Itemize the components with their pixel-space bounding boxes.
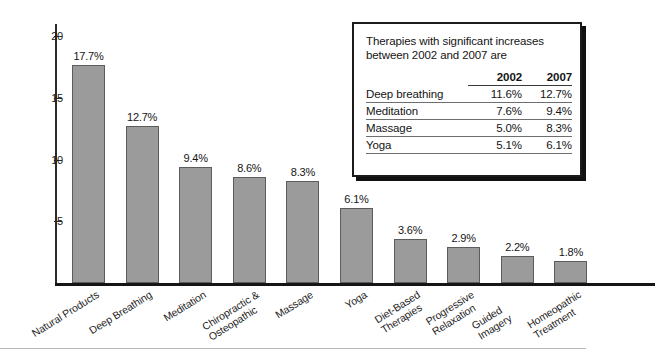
y-tick-label: 10 (23, 155, 63, 166)
y-tick-label: 15 (23, 93, 63, 104)
x-category-label-text: Diet-Based Therapies (373, 289, 428, 336)
table-cell-2002-value: 7.6% (468, 103, 522, 120)
bar-value-label: 3.6% (380, 225, 440, 236)
bar-value-label: 6.1% (327, 194, 387, 205)
bar (394, 239, 427, 283)
table-cell-2007-value: 9.4% (522, 103, 572, 120)
table-body: Deep breathing11.6%12.7%Meditation7.6%9.… (366, 86, 572, 154)
table-row: Yoga5.1%6.1% (366, 137, 572, 154)
y-tick-label: 5 (23, 216, 63, 227)
table-cell-therapy-name: Massage (366, 120, 468, 137)
infobox-table: 2002 2007 Deep breathing11.6%12.7%Medita… (366, 71, 572, 154)
bar-value-label: 1.8% (541, 247, 601, 258)
table-cell-therapy-name: Deep breathing (366, 86, 468, 103)
table-cell-2007-value: 8.3% (522, 120, 572, 137)
bar-value-label: 8.6% (219, 163, 279, 174)
bar-value-label: 9.4% (166, 153, 226, 164)
bar-value-label: 2.2% (487, 242, 547, 253)
table-cell-therapy-name: Meditation (366, 103, 468, 120)
table-header-2007: 2007 (522, 71, 572, 86)
table-row: Deep breathing11.6%12.7% (366, 86, 572, 103)
x-category-label-text: Meditation (161, 289, 207, 324)
table-cell-therapy-name: Yoga (366, 137, 468, 154)
x-category-label-text: Yoga (343, 289, 369, 311)
bar-value-label: 12.7% (112, 112, 172, 123)
figure-bottom-rule (0, 348, 586, 349)
table-header-blank (366, 71, 468, 86)
table-cell-2002-value: 5.0% (468, 120, 522, 137)
bar-value-label: 8.3% (273, 167, 333, 178)
infobox-panel: Therapies with significant increases bet… (352, 22, 582, 177)
table-cell-2002-value: 11.6% (468, 86, 522, 103)
table-row: Meditation7.6%9.4% (366, 103, 572, 120)
bar-value-label: 2.9% (434, 233, 494, 244)
y-tick-label: 20 (23, 31, 63, 42)
table-header-row: 2002 2007 (366, 71, 572, 86)
bar-value-label: 17.7% (59, 51, 119, 62)
table-row: Massage5.0%8.3% (366, 120, 572, 137)
table-cell-2007-value: 12.7% (522, 86, 572, 103)
infobox-title: Therapies with significant increases bet… (366, 34, 568, 62)
table-cell-2007-value: 6.1% (522, 137, 572, 154)
table-header-2002: 2002 (468, 71, 522, 86)
table-cell-2002-value: 5.1% (468, 137, 522, 154)
bar (72, 65, 105, 283)
